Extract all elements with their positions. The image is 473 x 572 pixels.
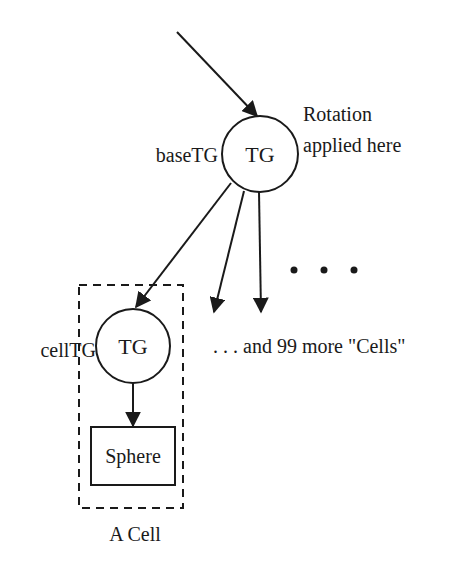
edge-base-to-cell-3 bbox=[259, 192, 261, 312]
base-tg-node: TG bbox=[222, 116, 298, 192]
ellipsis-dots bbox=[291, 267, 358, 274]
base-tg-name: baseTG bbox=[156, 144, 218, 166]
rotation-annotation-line2: applied here bbox=[303, 134, 401, 157]
sphere-label: Sphere bbox=[105, 445, 161, 468]
edge-root-to-base bbox=[177, 32, 257, 116]
cell-tg-name: cellTG bbox=[40, 339, 96, 361]
more-cells-label: . . . and 99 more "Cells" bbox=[213, 335, 405, 357]
edge-base-to-cell bbox=[136, 183, 231, 307]
base-tg-label: TG bbox=[245, 142, 274, 167]
sphere-node: Sphere bbox=[91, 427, 175, 485]
cell-group-label: A Cell bbox=[109, 523, 161, 545]
scene-graph-diagram: TG baseTG Rotation applied here . . . an… bbox=[0, 0, 473, 572]
cell-tg-node: TG bbox=[96, 309, 170, 383]
edge-base-to-cell-2 bbox=[214, 191, 244, 312]
rotation-annotation-line1: Rotation bbox=[303, 103, 372, 125]
cell-tg-label: TG bbox=[118, 334, 147, 359]
